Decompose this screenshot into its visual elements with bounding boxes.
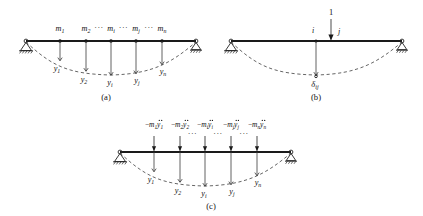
panel-c-force-label-i: −miyi: [197, 120, 213, 130]
panel-c-ellipsis-2: ···: [213, 129, 223, 138]
panel-c-force-label-j: −mjyj: [223, 120, 239, 130]
panel-c-deflected-shape: [120, 153, 291, 186]
panel-b-point-i-label: i: [312, 26, 314, 35]
panel-c-displacement-label-i: yi: [200, 189, 207, 199]
panel-a: m1 m2 mi mj mn ··· ··· ··· y1 y2 yi yj y…: [19, 23, 202, 102]
panel-c-force-label-2: −m2y2: [171, 120, 189, 130]
panel-a-displacement-label-j: yj: [133, 76, 140, 86]
panel-c-ellipsis-1: ···: [188, 129, 198, 138]
panel-b: 1 i j δij (b): [224, 8, 408, 102]
panel-a-hangers: [58, 41, 164, 75]
panel-c-ellipsis-3: ···: [239, 129, 249, 138]
panel-a-caption: (a): [101, 92, 111, 102]
panel-b-deflection-measure: [314, 41, 318, 78]
panel-b-unit-load-arrow: [328, 19, 333, 40]
panel-b-point-j-label: j: [337, 27, 341, 36]
panel-c-displacement-label-2: y2: [174, 186, 182, 196]
panel-a-mass-label-i: mi: [107, 24, 115, 34]
panel-a-ellipsis-3: ···: [144, 23, 154, 32]
panel-c-force-arrows: [152, 136, 259, 151]
figure-container: m1 m2 mi mj mn ··· ··· ··· y1 y2 yi yj y…: [0, 0, 423, 216]
panel-c-hangers: [152, 152, 259, 186]
panel-b-caption: (b): [311, 92, 321, 102]
panel-a-mass-label-j: mj: [132, 24, 140, 34]
panel-c-caption: (c): [206, 201, 216, 211]
panel-c-force-label-n: −mnyn: [248, 120, 266, 130]
panel-b-deflection-label: δij: [311, 80, 319, 90]
panel-a-ellipsis-1: ···: [94, 23, 104, 32]
structural-dynamics-figure: m1 m2 mi mj mn ··· ··· ··· y1 y2 yi yj y…: [0, 0, 423, 216]
panel-a-mass-label-1: m1: [56, 24, 65, 34]
panel-b-deflected-shape: [231, 42, 402, 75]
panel-c-displacement-label-n: yn: [254, 178, 262, 188]
panel-c-force-label-1: −m1y1: [145, 120, 163, 130]
panel-c-displacement-label-j: yj: [228, 187, 235, 197]
panel-a-displacement-label-n: yn: [159, 67, 167, 77]
panel-a-displacement-label-i: yi: [106, 78, 113, 88]
panel-a-mass-label-n: mn: [158, 24, 167, 34]
panel-b-unit-load-label: 1: [329, 8, 333, 17]
panel-c: −m1y1 −m2y2 −miyi −mjyj −mnyn ··· ··· ··…: [113, 120, 297, 211]
panel-a-ellipsis-2: ···: [119, 23, 129, 32]
panel-a-mass-label-2: m2: [82, 24, 91, 34]
panel-a-displacement-label-2: y2: [80, 75, 88, 85]
